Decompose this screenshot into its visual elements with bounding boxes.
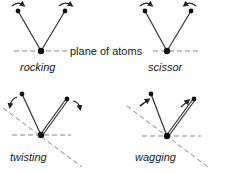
bond-right-front xyxy=(40,99,66,135)
twist-arrow-icon xyxy=(10,97,17,106)
atom-left xyxy=(20,92,25,97)
bond-left xyxy=(18,11,41,51)
panel-rocking: rocking xyxy=(12,3,71,73)
bond-left xyxy=(145,11,167,51)
vibration-modes-diagram: rocking plane of atoms scissor twisting xyxy=(0,0,250,173)
bond-right xyxy=(167,11,191,51)
rotation-arrow-icon xyxy=(12,3,23,6)
bond-right-front xyxy=(166,99,193,136)
twist-arrow-icon xyxy=(73,101,80,108)
mode-label-scissor: scissor xyxy=(148,61,184,73)
panel-twisting: twisting xyxy=(3,92,82,167)
rotation-arrow-icon xyxy=(59,3,71,6)
mode-label-rocking: rocking xyxy=(20,61,56,73)
atom-left xyxy=(149,92,154,97)
rotation-arrow-icon xyxy=(140,3,151,6)
central-atom xyxy=(38,48,44,54)
bond-right xyxy=(41,11,65,51)
plane-of-atoms-label: plane of atoms xyxy=(70,45,143,57)
atom-right xyxy=(192,97,197,102)
bond-right-back xyxy=(168,100,195,137)
atom-left xyxy=(143,9,148,14)
bond-right-back xyxy=(42,100,68,136)
atom-right xyxy=(63,9,68,14)
central-atom xyxy=(38,132,44,138)
central-atom xyxy=(164,48,170,54)
atom-right xyxy=(65,97,70,102)
atom-right xyxy=(189,9,194,14)
wag-arrow-icon xyxy=(181,101,188,107)
wag-arrow-icon xyxy=(140,100,148,106)
atom-left xyxy=(16,9,21,14)
mode-label-twisting: twisting xyxy=(10,151,48,163)
rotation-arrow-icon xyxy=(185,3,196,6)
central-atom xyxy=(164,133,170,139)
panel-scissor: scissor xyxy=(140,3,198,73)
panel-wagging: wagging xyxy=(127,92,208,167)
bond-left xyxy=(151,94,167,136)
mode-label-wagging: wagging xyxy=(135,151,177,163)
